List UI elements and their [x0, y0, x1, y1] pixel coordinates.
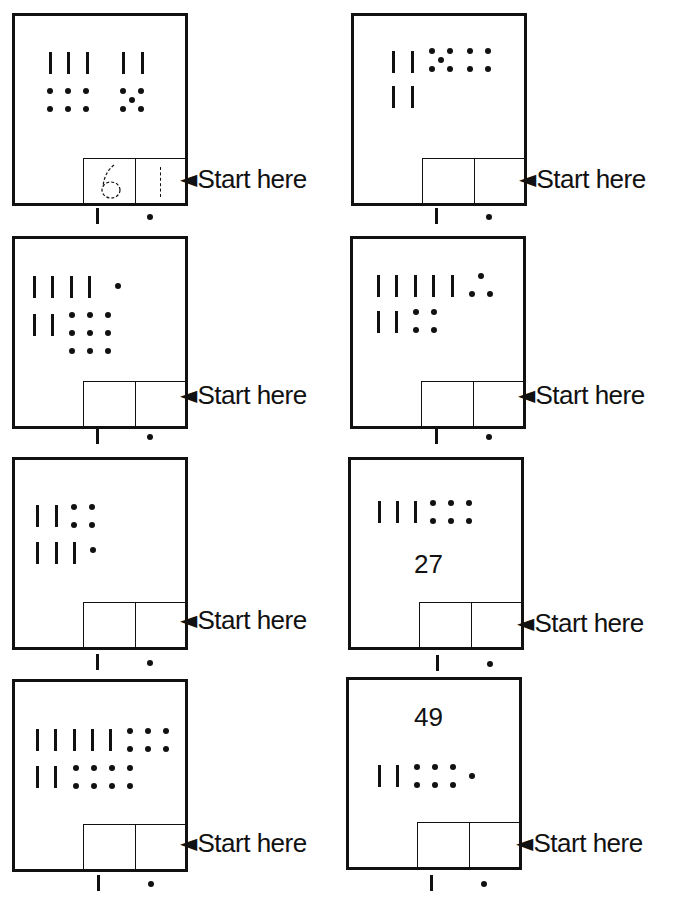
arrow-left-icon: ◀ [519, 170, 535, 189]
exercise-panel-8: 49 [346, 677, 522, 870]
printed-number: 49 [414, 702, 443, 733]
ones-dot-icon [147, 660, 153, 666]
column-labels [74, 875, 179, 895]
arrow-left-icon: ◀ [517, 614, 533, 633]
column-labels [73, 208, 178, 228]
arrow-left-icon: ◀ [518, 386, 534, 405]
ones-dot-icon [487, 661, 493, 667]
tens-stick-icon [96, 428, 99, 444]
traced-digit-1 [160, 167, 161, 197]
traced-digit-6 [98, 163, 124, 201]
arrow-left-icon: ◀ [180, 386, 196, 405]
exercise-panel-4 [350, 236, 526, 429]
tens-stick-icon [96, 208, 99, 224]
tens-answer-box[interactable] [420, 603, 472, 649]
arrow-left-icon: ◀ [516, 834, 532, 853]
printed-number: 27 [414, 549, 443, 580]
answer-boxes [419, 602, 524, 650]
column-labels [407, 875, 512, 895]
start-here-label: ◀ Start here [519, 608, 644, 639]
ones-dot-icon [486, 434, 492, 440]
ones-answer-box[interactable] [472, 603, 523, 649]
column-labels [73, 654, 178, 674]
answer-boxes [421, 381, 526, 429]
tens-answer-box[interactable] [423, 159, 475, 205]
tens-stick-icon [435, 208, 438, 224]
answer-boxes [83, 381, 188, 429]
start-here-label: ◀ Start here [182, 164, 307, 195]
column-labels [73, 428, 178, 448]
tens-stick-icon [430, 875, 433, 891]
start-here-label: ◀ Start here [182, 828, 307, 859]
column-labels [412, 428, 517, 448]
ones-dot-icon [481, 881, 487, 887]
tens-answer-box[interactable] [418, 823, 470, 869]
start-here-label: ◀ Start here [520, 380, 645, 411]
ones-dot-icon [148, 881, 154, 887]
start-here-label: ◀ Start here [521, 164, 646, 195]
exercise-panel-2 [351, 13, 527, 206]
ones-dot-icon [147, 214, 153, 220]
exercise-panel-1 [12, 13, 188, 206]
start-here-label: ◀ Start here [518, 828, 643, 859]
exercise-panel-5 [12, 457, 188, 650]
arrow-left-icon: ◀ [180, 834, 196, 853]
tens-answer-box[interactable] [84, 382, 136, 428]
ones-answer-box[interactable] [470, 823, 521, 869]
tens-stick-icon [436, 655, 439, 671]
start-here-label: ◀ Start here [182, 605, 307, 636]
tens-stick-icon [96, 654, 99, 670]
tens-answer-box[interactable] [84, 603, 136, 649]
answer-boxes [83, 602, 188, 650]
exercise-panel-3 [12, 236, 188, 429]
arrow-left-icon: ◀ [180, 611, 196, 630]
tens-stick-icon [97, 875, 100, 891]
tens-answer-box[interactable] [84, 159, 136, 205]
ones-dot-icon [486, 214, 492, 220]
answer-boxes [83, 158, 188, 206]
column-labels [413, 655, 518, 675]
tens-stick-icon [435, 428, 438, 444]
answer-boxes [422, 158, 527, 206]
arrow-left-icon: ◀ [180, 170, 196, 189]
exercise-panel-7 [12, 679, 188, 872]
answer-boxes [83, 824, 188, 872]
tens-answer-box[interactable] [422, 382, 474, 428]
tens-answer-box[interactable] [84, 825, 136, 871]
start-here-label: ◀ Start here [182, 380, 307, 411]
ones-dot-icon [147, 434, 153, 440]
column-labels [412, 208, 517, 228]
answer-boxes [417, 822, 522, 870]
exercise-panel-6: 27 [348, 457, 524, 650]
